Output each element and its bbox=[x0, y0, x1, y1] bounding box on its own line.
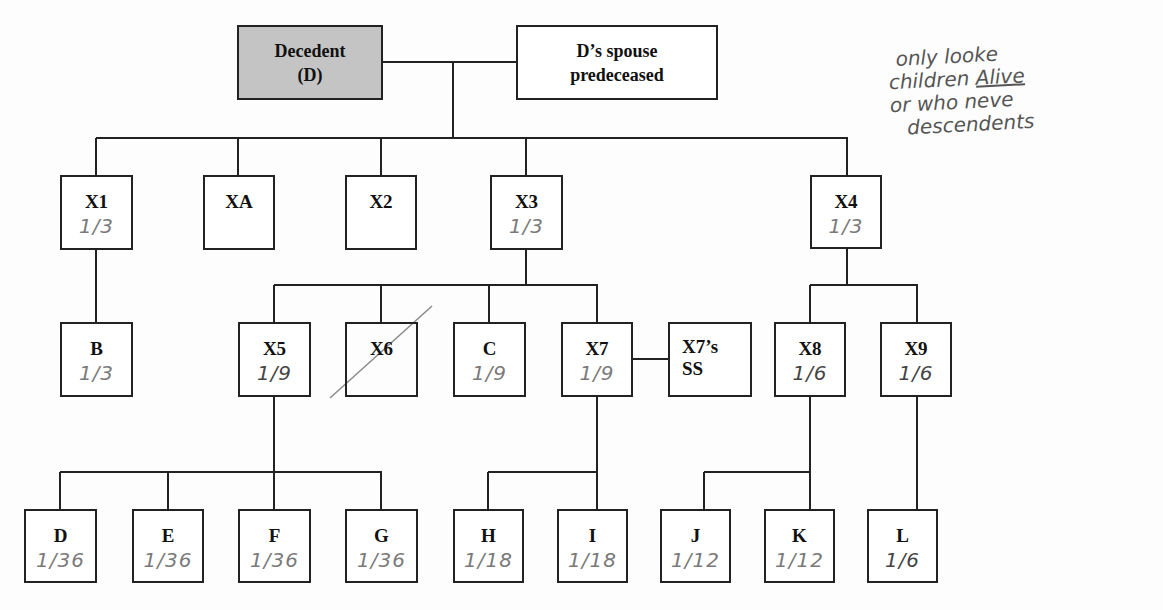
node-label: D bbox=[54, 525, 68, 547]
node-label: D’s spouse bbox=[577, 39, 658, 63]
node-share: 1/6 bbox=[792, 360, 827, 386]
node-label: XA bbox=[225, 191, 252, 213]
node-label: K bbox=[792, 525, 807, 547]
node-share: 1/12 bbox=[775, 547, 824, 573]
node-label: X8 bbox=[798, 338, 821, 360]
node-label: G bbox=[374, 525, 389, 547]
node-share: 1/3 bbox=[79, 213, 114, 239]
node-label: Decedent bbox=[275, 39, 346, 63]
node-i: I 1/18 bbox=[557, 509, 628, 583]
node-share: 1/6 bbox=[898, 360, 933, 386]
node-share: 1/3 bbox=[828, 213, 863, 239]
node-x3: X3 1/3 bbox=[490, 175, 563, 250]
node-share: 1/9 bbox=[257, 360, 292, 386]
node-x8: X8 1/6 bbox=[774, 322, 846, 397]
node-share: 1/36 bbox=[144, 547, 193, 573]
node-label: X7’s bbox=[682, 336, 718, 358]
node-e: E 1/36 bbox=[132, 509, 204, 583]
handwritten-note: only looke children Alive or who neve de… bbox=[895, 34, 1159, 139]
note-underlined-word: Alive bbox=[975, 63, 1025, 90]
node-x7: X7 1/9 bbox=[561, 322, 633, 397]
node-x1: X1 1/3 bbox=[60, 175, 133, 250]
node-share: 1/36 bbox=[357, 547, 406, 573]
node-spouse: D’s spouse predeceased bbox=[516, 25, 718, 100]
node-label: X7 bbox=[585, 338, 608, 360]
node-share: 1/18 bbox=[568, 547, 617, 573]
node-share: 1/12 bbox=[671, 547, 720, 573]
node-label: I bbox=[589, 525, 596, 547]
node-share: 1/36 bbox=[250, 547, 299, 573]
node-label: predeceased bbox=[570, 63, 664, 87]
node-label: B bbox=[90, 338, 103, 360]
node-label: F bbox=[269, 525, 281, 547]
node-g: G 1/36 bbox=[345, 509, 418, 583]
node-x4: X4 1/3 bbox=[810, 175, 882, 249]
node-b: B 1/3 bbox=[60, 322, 133, 397]
node-decedent: Decedent (D) bbox=[237, 25, 383, 100]
node-label: X3 bbox=[515, 191, 538, 213]
family-tree-diagram: Decedent (D) D’s spouse predeceased X1 1… bbox=[0, 0, 1163, 610]
node-c: C 1/9 bbox=[453, 322, 526, 397]
node-d: D 1/36 bbox=[24, 509, 97, 583]
node-x6: X6 bbox=[345, 322, 418, 397]
node-h: H 1/18 bbox=[453, 509, 524, 583]
node-xa: XA bbox=[203, 175, 275, 250]
node-label: X4 bbox=[834, 191, 857, 213]
node-share: 1/36 bbox=[36, 547, 85, 573]
node-label: H bbox=[481, 525, 496, 547]
node-k: K 1/12 bbox=[764, 509, 835, 583]
node-share: 1/9 bbox=[472, 360, 507, 386]
node-f: F 1/36 bbox=[238, 509, 311, 583]
node-label: X9 bbox=[904, 338, 927, 360]
node-label: L bbox=[896, 525, 909, 547]
node-l: L 1/6 bbox=[867, 509, 938, 583]
node-label: (D) bbox=[298, 63, 323, 87]
node-share: 1/9 bbox=[579, 360, 614, 386]
node-label: J bbox=[691, 525, 701, 547]
node-label: X5 bbox=[263, 338, 286, 360]
node-j: J 1/12 bbox=[660, 509, 731, 583]
node-share: 1/3 bbox=[79, 360, 114, 386]
node-share: 1/18 bbox=[464, 547, 513, 573]
node-label: E bbox=[162, 525, 175, 547]
node-share: 1/3 bbox=[509, 213, 544, 239]
node-label: X1 bbox=[85, 191, 108, 213]
node-x5: X5 1/9 bbox=[238, 322, 311, 397]
node-label: SS bbox=[682, 358, 703, 380]
node-x9: X9 1/6 bbox=[880, 322, 952, 397]
node-label: C bbox=[483, 338, 497, 360]
node-label: X2 bbox=[369, 191, 392, 213]
node-share: 1/6 bbox=[885, 547, 920, 573]
node-label: X6 bbox=[370, 338, 393, 360]
node-x2: X2 bbox=[345, 175, 417, 250]
node-x7-spouse: X7’s SS bbox=[668, 322, 752, 397]
